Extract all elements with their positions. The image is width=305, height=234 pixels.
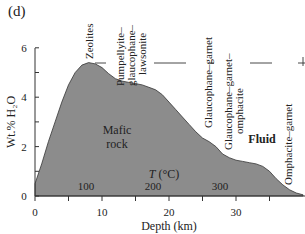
temperature-100: 100 <box>78 180 95 192</box>
svg-text:omphacite: omphacite <box>233 88 245 134</box>
y-tick-0: 0 <box>21 190 27 202</box>
temperature-300: 300 <box>212 180 229 192</box>
label-glaucophane-garnet-omphacite: Glaucophane–garnet– omphacite <box>222 53 245 150</box>
label-omphacite-garnet: Omphacite–garnet <box>282 104 294 185</box>
x-tick-30: 30 <box>231 206 243 218</box>
y-tick-2: 2 <box>21 141 27 153</box>
y-axis-label: Wt.% H₂O <box>4 96 18 149</box>
x-tick-0: 0 <box>32 206 38 218</box>
label-fluid: Fluid <box>248 132 276 146</box>
temperature-label: T (°C) <box>149 167 179 181</box>
x-tick-20: 20 <box>164 206 176 218</box>
label-rock: rock <box>106 137 127 151</box>
y-tick-4: 4 <box>21 91 27 103</box>
label-pumpellyite: Pumpellyite– glaucophane– lawsonite <box>114 24 148 86</box>
label-glaucophane-garnet: Glaucophane–garnet <box>202 37 214 128</box>
x-tick-10: 10 <box>97 206 109 218</box>
chart: 0 2 4 6 Wt.% H₂O 0 10 20 30 Depth (km) Z… <box>0 0 305 234</box>
label-zeolites: Zeolites <box>83 24 95 59</box>
label-mafic: Mafic <box>103 123 132 137</box>
temperature-200: 200 <box>145 180 162 192</box>
x-axis-label: Depth (km) <box>141 219 197 233</box>
svg-text:lawsonite: lawsonite <box>136 33 148 75</box>
y-tick-6: 6 <box>21 42 27 54</box>
